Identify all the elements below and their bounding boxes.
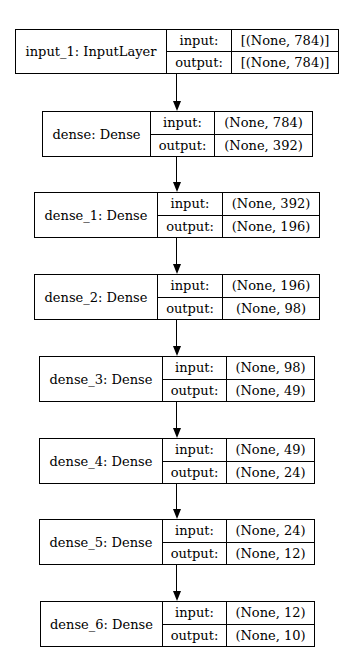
node-dense-2: dense_2: Dense input: output: (None, 196…: [34, 274, 320, 320]
edge-line: [176, 565, 177, 593]
output-shape: (None, 24): [227, 462, 314, 484]
output-shape: (None, 98): [223, 298, 319, 320]
input-port-label: input:: [151, 112, 214, 135]
port-labels: input: output:: [163, 357, 227, 401]
input-shape: [(None, 784)]: [232, 30, 338, 52]
node-label: dense_4: Dense: [40, 439, 163, 483]
port-shapes: (None, 12) (None, 10): [227, 602, 314, 646]
output-shape: (None, 392): [215, 135, 312, 157]
node-label: dense_6: Dense: [41, 602, 163, 646]
output-port-label: output:: [158, 216, 222, 238]
input-port-label: input:: [163, 520, 226, 543]
input-port-label: input:: [163, 357, 226, 380]
port-shapes: (None, 98) (None, 49): [227, 357, 314, 401]
output-port-label: output:: [163, 625, 226, 647]
edge-line: [176, 74, 177, 102]
input-shape: (None, 98): [227, 357, 314, 380]
output-shape: (None, 49): [227, 380, 314, 402]
edge-line: [176, 484, 177, 511]
node-dense-1: dense_1: Dense input: output: (None, 392…: [34, 192, 320, 238]
arrow-down-icon: [173, 101, 181, 111]
input-port-label: input:: [158, 193, 222, 216]
input-port-label: input:: [163, 439, 226, 462]
output-shape: [(None, 784)]: [232, 52, 338, 73]
port-labels: input: output:: [163, 520, 227, 564]
port-labels: input: output:: [167, 30, 232, 73]
input-shape: (None, 24): [227, 520, 314, 543]
node-dense-6: dense_6: Dense input: output: (None, 12)…: [40, 601, 315, 647]
node-label: dense_2: Dense: [35, 275, 158, 319]
node-dense-4: dense_4: Dense input: output: (None, 49)…: [39, 438, 315, 484]
node-input-1: input_1: InputLayer input: output: [(Non…: [15, 29, 339, 74]
port-labels: input: output:: [163, 439, 227, 483]
output-port-label: output:: [163, 543, 226, 565]
output-port-label: output:: [167, 52, 231, 73]
input-port-label: input:: [158, 275, 222, 298]
output-port-label: output:: [163, 462, 226, 484]
node-dense-5: dense_5: Dense input: output: (None, 24)…: [39, 519, 315, 565]
output-shape: (None, 196): [223, 216, 319, 238]
arrow-down-icon: [173, 428, 181, 438]
input-shape: (None, 392): [223, 193, 319, 216]
node-label: dense: Dense: [43, 112, 151, 156]
port-shapes: [(None, 784)] [(None, 784)]: [232, 30, 338, 73]
port-labels: input: output:: [163, 602, 227, 646]
input-port-label: input:: [163, 602, 226, 625]
node-dense: dense: Dense input: output: (None, 784) …: [42, 111, 313, 157]
input-shape: (None, 49): [227, 439, 314, 462]
edge-line: [176, 402, 177, 430]
input-port-label: input:: [167, 30, 231, 52]
arrow-down-icon: [173, 346, 181, 356]
node-label: dense_5: Dense: [40, 520, 163, 564]
edge-line: [176, 320, 177, 348]
port-labels: input: output:: [158, 275, 223, 319]
arrow-down-icon: [173, 182, 181, 192]
port-shapes: (None, 24) (None, 12): [227, 520, 314, 564]
output-shape: (None, 10): [227, 625, 314, 647]
output-port-label: output:: [163, 380, 226, 402]
output-port-label: output:: [151, 135, 214, 157]
input-shape: (None, 784): [215, 112, 312, 135]
edge-line: [176, 157, 177, 184]
port-shapes: (None, 784) (None, 392): [215, 112, 312, 156]
arrow-down-icon: [173, 509, 181, 519]
output-port-label: output:: [158, 298, 222, 320]
port-labels: input: output:: [151, 112, 215, 156]
arrow-down-icon: [173, 591, 181, 601]
node-label: input_1: InputLayer: [16, 30, 167, 73]
port-shapes: (None, 196) (None, 98): [223, 275, 319, 319]
output-shape: (None, 12): [227, 543, 314, 565]
port-labels: input: output:: [158, 193, 223, 237]
node-dense-3: dense_3: Dense input: output: (None, 98)…: [39, 356, 315, 402]
edge-line: [176, 238, 177, 266]
node-label: dense_3: Dense: [40, 357, 163, 401]
port-shapes: (None, 49) (None, 24): [227, 439, 314, 483]
node-label: dense_1: Dense: [35, 193, 158, 237]
input-shape: (None, 196): [223, 275, 319, 298]
port-shapes: (None, 392) (None, 196): [223, 193, 319, 237]
arrow-down-icon: [173, 264, 181, 274]
input-shape: (None, 12): [227, 602, 314, 625]
